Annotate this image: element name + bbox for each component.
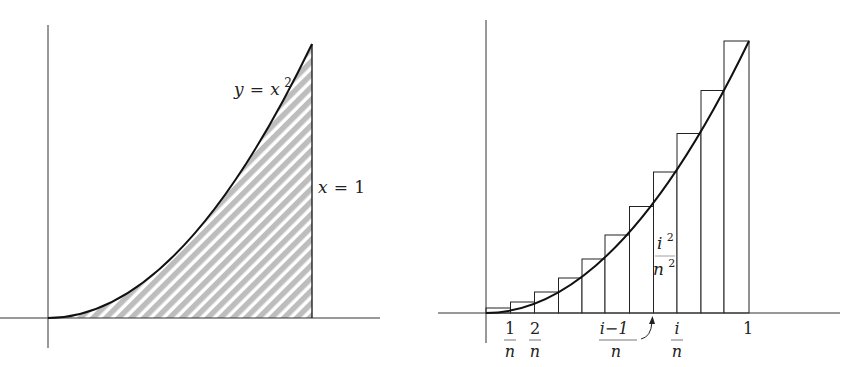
svg-text:i: i xyxy=(674,319,679,338)
left-figure: y = x 2 x = 1 xyxy=(0,25,380,348)
right-figure: 1 n 2 n i−1 n i n 1 i 2 xyxy=(438,20,840,361)
svg-text:n: n xyxy=(505,342,515,361)
tick-label-1-over-n: 1 n xyxy=(504,319,516,361)
svg-text:i−1: i−1 xyxy=(600,319,629,338)
riemann-rectangles xyxy=(486,41,749,313)
tick-label-i-minus-1-over-n: i−1 n xyxy=(599,316,655,361)
svg-text:n: n xyxy=(611,342,621,361)
svg-text:2: 2 xyxy=(530,319,540,338)
svg-text:n: n xyxy=(672,342,682,361)
curve-label: y = x 2 xyxy=(233,76,292,99)
tick-label-i-over-n: i n xyxy=(671,319,683,361)
arrow-head-icon xyxy=(649,316,655,324)
rectangle-9 xyxy=(677,134,701,314)
boundary-label: x = 1 xyxy=(318,177,365,197)
rectangle-4 xyxy=(559,278,583,313)
svg-text:1: 1 xyxy=(505,319,515,338)
pointer-arrow xyxy=(641,322,652,339)
rectangle-6 xyxy=(605,235,630,313)
tick-label-1: 1 xyxy=(743,319,753,338)
rectangle-7 xyxy=(630,207,654,314)
svg-text:n: n xyxy=(530,342,540,361)
tick-label-2-over-n: 2 n xyxy=(529,319,541,361)
figure-canvas: y = x 2 x = 1 xyxy=(0,0,842,367)
